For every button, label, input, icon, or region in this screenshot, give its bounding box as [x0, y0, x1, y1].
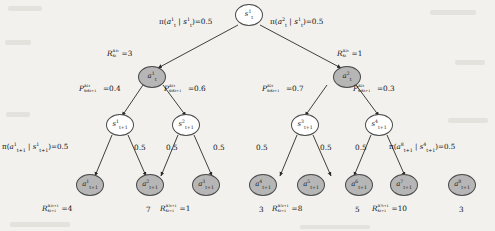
leaf-action-node-1-label: a1t+1: [82, 180, 98, 190]
tree-edges: [0, 0, 495, 231]
mdp-tree-diagram: s1t π(a1t | s1t)=0.5 π(a2t | s1t)=0.5 Ra…: [0, 0, 495, 231]
action-node-a1[interactable]: a1t: [138, 66, 166, 88]
state-node-root-label: s1t: [245, 10, 253, 20]
leaf-action-node-2[interactable]: a2t+1: [136, 174, 164, 196]
policy-value-5: 0.5: [256, 144, 268, 151]
leaf-reward-2: 7: [146, 206, 151, 213]
policy-value-4: 0.5: [213, 144, 225, 151]
leaf-action-node-4-label: a4t+1: [255, 180, 271, 190]
leaf-reward-5: Ra5t+1st+1=8: [272, 205, 302, 212]
leaf-reward-3: Ra3t+1st+1=1: [160, 205, 190, 212]
action-node-a1-label: a1t: [148, 72, 157, 82]
leaf-action-node-2-label: a2t+1: [142, 180, 158, 190]
leaf-action-node-5[interactable]: a5t+1: [297, 174, 325, 196]
reward-label-action-2: Ra2tst=1: [337, 50, 362, 57]
state-node-s3-next-label: s3t+1: [297, 120, 312, 130]
leaf-action-node-3[interactable]: a3t+1: [192, 174, 220, 196]
leaf-action-node-6[interactable]: a6t+1: [345, 174, 373, 196]
policy-label-bottom-left: π(a1t+1 | s1t+1)=0.5: [2, 143, 68, 154]
policy-label-bottom-right: π(a8t+1 | s4t+1)=0.5: [389, 143, 455, 154]
policy-value-6: 0.5: [320, 144, 332, 151]
state-node-s1-next[interactable]: s1t+1: [106, 114, 134, 136]
reward-label-action-1: Ra1tst=3: [107, 50, 132, 57]
transition-prob-2: Pa1tstst+1=0.6: [164, 85, 206, 92]
leaf-reward-4: 3: [259, 206, 264, 213]
policy-value-2: 0.5: [134, 144, 146, 151]
transition-prob-1: Pa1tstst+1=0.4: [79, 85, 121, 92]
state-node-s4-next[interactable]: s4t+1: [365, 114, 393, 136]
leaf-action-node-6-label: a6t+1: [351, 180, 367, 190]
leaf-action-node-4[interactable]: a4t+1: [249, 174, 277, 196]
action-node-a2-label: a2t: [343, 72, 352, 82]
transition-prob-4: Pa2tstst+1=0.3: [353, 85, 395, 92]
leaf-action-node-8-label: a8t+1: [454, 180, 470, 190]
leaf-reward-6: 5: [355, 206, 360, 213]
state-node-s2-next-label: s2t+1: [178, 120, 193, 130]
policy-label-left: π(a1t | s1t)=0.5: [159, 18, 212, 29]
leaf-action-node-8[interactable]: a8t+1: [448, 174, 476, 196]
state-node-s4-next-label: s4t+1: [371, 120, 386, 130]
policy-label-right: π(a2t | s1t)=0.5: [270, 18, 323, 29]
leaf-action-node-5-label: a5t+1: [303, 180, 319, 190]
leaf-reward-1: Ra1t+1st+1=4: [42, 205, 72, 212]
leaf-action-node-7-label: a7t+1: [396, 180, 412, 190]
leaf-action-node-7[interactable]: a7t+1: [390, 174, 418, 196]
leaf-action-node-1[interactable]: a1t+1: [76, 174, 104, 196]
policy-value-3: 0.5: [166, 144, 178, 151]
state-node-s2-next[interactable]: s2t+1: [172, 114, 200, 136]
transition-prob-3: Pa2tstst+1=0.7: [262, 85, 304, 92]
state-node-s1-next-label: s1t+1: [112, 120, 127, 130]
policy-value-7: 0.5: [355, 144, 367, 151]
leaf-reward-8: 3: [459, 206, 464, 213]
leaf-reward-7: Ra7t+1st+1=10: [372, 205, 407, 212]
state-node-s3-next[interactable]: s3t+1: [291, 114, 319, 136]
leaf-action-node-3-label: a3t+1: [198, 180, 214, 190]
state-node-root[interactable]: s1t: [235, 4, 263, 26]
